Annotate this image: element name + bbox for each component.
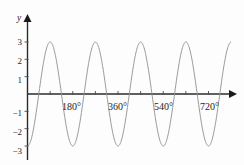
y-axis-label: y [17, 14, 21, 24]
y-axis-arrow-icon [24, 14, 32, 22]
y-tick-label-2: 2 [12, 57, 22, 66]
x-tick-label-360: 360° [108, 102, 127, 112]
trig-graph-figure: y 3 2 1 −1 −2 −3 180° 360° 540° 720° [0, 0, 244, 165]
plot-canvas [0, 0, 244, 165]
y-tick-label-neg1: −1 [8, 109, 22, 118]
y-tick-label-neg2: −2 [8, 128, 22, 137]
x-tick-label-720: 720° [200, 102, 219, 112]
x-axis-arrow-icon [229, 90, 237, 98]
x-tick-label-180: 180° [62, 102, 81, 112]
x-tick-label-540: 540° [154, 102, 173, 112]
y-tick-label-neg3: −3 [8, 147, 22, 156]
y-tick-label-1: 1 [12, 76, 22, 85]
y-tick-label-3: 3 [12, 38, 22, 47]
